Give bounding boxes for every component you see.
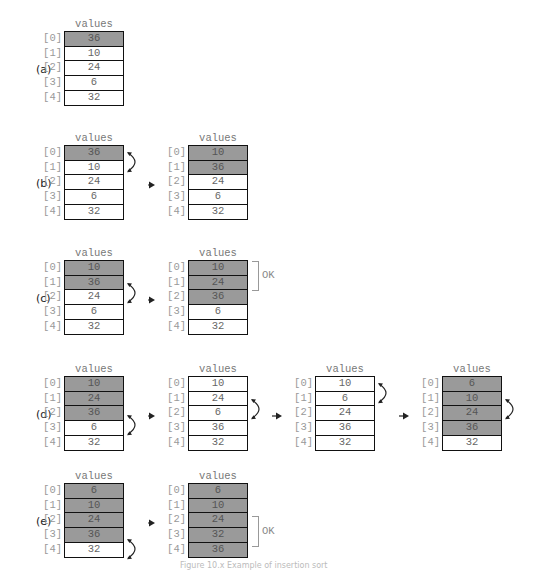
swap-arrow-icon	[126, 150, 144, 174]
array-cells: 6[0]10[1]24[2]36[3]32[4]	[64, 483, 124, 558]
index-label: [4]	[34, 436, 62, 449]
index-label: [3]	[412, 421, 440, 434]
index-label: [0]	[34, 146, 62, 159]
array-name-label: values	[442, 363, 502, 375]
swap-arrow-icon	[126, 413, 144, 437]
index-label: [1]	[158, 276, 186, 289]
array-name-label: values	[64, 18, 124, 30]
array-cells: 10[0]6[1]24[2]36[3]32[4]	[315, 376, 375, 451]
index-label: [4]	[158, 320, 186, 333]
index-label: [2]	[34, 175, 62, 188]
index-label: [4]	[158, 205, 186, 218]
index-label: [3]	[34, 76, 62, 89]
index-label: [3]	[34, 305, 62, 318]
index-label: [2]	[158, 513, 186, 526]
array-cell: 32[4]	[64, 90, 124, 106]
arrow-right-icon	[272, 412, 282, 420]
index-label: [1]	[285, 392, 313, 405]
index-label: [4]	[34, 320, 62, 333]
array-cells: 10[0]24[1]36[2]6[3]32[4]	[188, 260, 248, 335]
arrow-right-icon	[399, 412, 409, 420]
array-cell: 32[4]	[64, 435, 124, 451]
index-label: [2]	[34, 61, 62, 74]
array-name-label: values	[64, 363, 124, 375]
array-name-label: values	[188, 132, 248, 144]
array-cells: 10[0]36[1]24[2]6[3]32[4]	[188, 145, 248, 220]
bracket-line	[252, 261, 259, 291]
array-cells: 10[0]36[1]24[2]6[3]32[4]	[64, 260, 124, 335]
index-label: [1]	[34, 499, 62, 512]
array-name-label: values	[188, 470, 248, 482]
index-label: [4]	[285, 436, 313, 449]
index-label: [3]	[158, 421, 186, 434]
swap-arrow-icon	[126, 281, 144, 305]
index-label: [1]	[158, 392, 186, 405]
index-label: [2]	[158, 290, 186, 303]
array-name-label: values	[188, 247, 248, 259]
array-cell: 32[4]	[64, 542, 124, 558]
index-label: [0]	[158, 484, 186, 497]
index-label: [2]	[34, 406, 62, 419]
index-label: [4]	[158, 543, 186, 556]
index-label: [0]	[158, 261, 186, 274]
swap-arrow-icon	[250, 397, 268, 421]
index-label: [2]	[34, 290, 62, 303]
index-label: [0]	[34, 261, 62, 274]
array-cell: 32[4]	[64, 319, 124, 335]
index-label: [0]	[34, 377, 62, 390]
index-label: [2]	[412, 406, 440, 419]
index-label: [2]	[158, 175, 186, 188]
index-label: [0]	[158, 146, 186, 159]
arrow-right-icon	[148, 519, 155, 527]
index-label: [2]	[158, 406, 186, 419]
array-cells: 36[0]10[1]24[2]6[3]32[4]	[64, 145, 124, 220]
array-name-label: values	[188, 363, 248, 375]
index-label: [1]	[34, 276, 62, 289]
array-name-label: values	[64, 247, 124, 259]
index-label: [2]	[285, 406, 313, 419]
bracket-line	[252, 516, 259, 546]
array-cell: 32[4]	[188, 435, 248, 451]
swap-arrow-icon	[504, 397, 522, 421]
array-name-label: values	[64, 132, 124, 144]
index-label: [1]	[34, 47, 62, 60]
index-label: [0]	[285, 377, 313, 390]
swap-arrow-icon	[126, 537, 144, 561]
index-label: [4]	[158, 436, 186, 449]
index-label: [0]	[158, 377, 186, 390]
array-cell: 32[4]	[188, 204, 248, 220]
index-label: [3]	[285, 421, 313, 434]
index-label: [0]	[34, 484, 62, 497]
array-cell: 36[4]	[188, 542, 248, 558]
index-label: [4]	[34, 543, 62, 556]
array-cells: 36[0]10[1]24[2]6[3]32[4]	[64, 31, 124, 106]
array-cell: 32[4]	[315, 435, 375, 451]
array-cell: 32[4]	[64, 204, 124, 220]
ok-label: OK	[262, 269, 275, 281]
index-label: [1]	[34, 161, 62, 174]
array-name-label: values	[315, 363, 375, 375]
figure-caption: Figure 10.x Example of insertion sort	[180, 561, 328, 570]
index-label: [3]	[158, 190, 186, 203]
index-label: [3]	[158, 528, 186, 541]
index-label: [1]	[158, 161, 186, 174]
array-cell: 32[4]	[442, 435, 502, 451]
index-label: [1]	[34, 392, 62, 405]
array-cell: 32[4]	[188, 319, 248, 335]
arrow-right-icon	[148, 296, 155, 304]
index-label: [1]	[412, 392, 440, 405]
array-cells: 6[0]10[1]24[2]32[3]36[4]	[188, 483, 248, 558]
array-cells: 10[0]24[1]6[2]36[3]32[4]	[188, 376, 248, 451]
array-cells: 10[0]24[1]36[2]6[3]32[4]	[64, 376, 124, 451]
index-label: [3]	[34, 421, 62, 434]
index-label: [4]	[34, 205, 62, 218]
index-label: [3]	[34, 190, 62, 203]
index-label: [4]	[34, 91, 62, 104]
index-label: [3]	[34, 528, 62, 541]
index-label: [2]	[34, 513, 62, 526]
arrow-right-icon	[148, 412, 155, 420]
index-label: [4]	[412, 436, 440, 449]
swap-arrow-icon	[377, 381, 395, 405]
index-label: [3]	[158, 305, 186, 318]
index-label: [0]	[412, 377, 440, 390]
